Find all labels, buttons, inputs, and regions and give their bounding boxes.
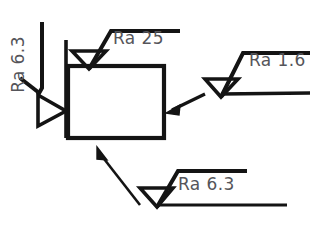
ra-label-bottom: Ra 6.3 (178, 176, 235, 193)
ra-label-top: Ra 25 (113, 30, 164, 47)
leader-line-left (38, 22, 42, 95)
arrowhead-right (166, 105, 180, 115)
technical-drawing-canvas: Ra 25 Ra 1.6 Ra 6.3 Ra 6.3 (0, 0, 310, 235)
ra-label-left: Ra 6.3 (10, 36, 27, 93)
part-rectangle (68, 66, 164, 138)
leader-line-bottom-to-part (101, 155, 140, 205)
surface-finish-triangle-left-icon (38, 95, 66, 126)
ra-label-right: Ra 1.6 (249, 52, 306, 69)
reference-line-right (221, 93, 310, 94)
arrowhead-bottom (97, 147, 107, 160)
